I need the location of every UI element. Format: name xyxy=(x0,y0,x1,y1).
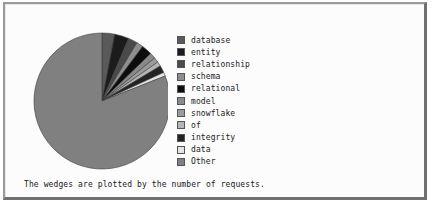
legend-item-label: relationship xyxy=(191,60,250,69)
legend-item[interactable]: relational xyxy=(177,83,282,95)
legend-swatch-icon xyxy=(177,134,185,142)
legend-swatch-icon xyxy=(177,73,185,81)
legend-swatch-icon xyxy=(177,158,185,166)
legend-item-label: integrity xyxy=(191,133,235,142)
legend-item[interactable]: integrity xyxy=(177,132,282,144)
legend-swatch-icon xyxy=(177,36,185,44)
legend-item[interactable]: snowflake xyxy=(177,107,282,119)
legend-item[interactable]: schema xyxy=(177,71,282,83)
legend-item[interactable]: entity xyxy=(177,46,282,58)
legend-swatch-icon xyxy=(177,109,185,117)
legend-swatch-icon xyxy=(177,121,185,129)
legend-item[interactable]: of xyxy=(177,119,282,131)
chart-frame: databaseentityrelationshipschemarelation… xyxy=(3,2,427,200)
legend-item-label: snowflake xyxy=(191,109,235,118)
plot-area: databaseentityrelationshipschemarelation… xyxy=(5,4,424,197)
legend-swatch-icon xyxy=(177,48,185,56)
legend-item-label: database xyxy=(191,36,230,45)
legend-item-label: model xyxy=(191,97,216,106)
chart-legend: databaseentityrelationshipschemarelation… xyxy=(177,34,282,168)
legend-item[interactable]: Other xyxy=(177,156,282,168)
legend-item-label: Other xyxy=(191,157,216,166)
legend-swatch-icon xyxy=(177,97,185,105)
legend-item[interactable]: relationship xyxy=(177,58,282,70)
legend-item-label: of xyxy=(191,121,201,130)
legend-item-label: entity xyxy=(191,48,221,57)
pie-chart xyxy=(30,20,168,176)
legend-item-label: schema xyxy=(191,72,221,81)
legend-item-label: relational xyxy=(191,84,240,93)
legend-swatch-icon xyxy=(177,85,185,93)
legend-item[interactable]: model xyxy=(177,95,282,107)
legend-item-label: data xyxy=(191,145,211,154)
chart-caption: The wedges are plotted by the number of … xyxy=(24,180,265,190)
pie-slice-group xyxy=(34,33,168,169)
legend-swatch-icon xyxy=(177,146,185,154)
legend-item[interactable]: database xyxy=(177,34,282,46)
legend-swatch-icon xyxy=(177,60,185,68)
legend-item[interactable]: data xyxy=(177,144,282,156)
